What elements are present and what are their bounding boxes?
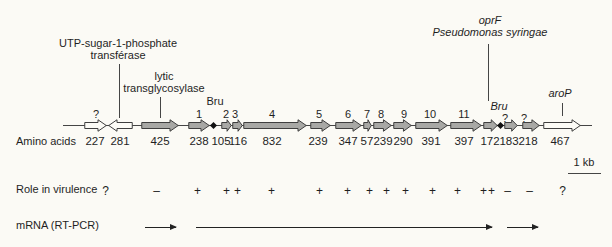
aa-count: 239 <box>308 135 327 147</box>
virulence-symbol: + <box>223 184 231 198</box>
gene-arrow-orf9 <box>393 119 412 132</box>
gene-number-orf2: 2 <box>223 108 229 120</box>
gene-number-orf4: 4 <box>269 108 275 120</box>
gene-number-orf7: 7 <box>364 108 370 120</box>
aa-count: 105 <box>211 135 230 147</box>
gene-number-orf9: 9 <box>401 108 407 120</box>
gene-arrow-orf10 <box>415 119 448 132</box>
gene-number-unknown-227: ? <box>93 108 99 120</box>
gene-arrow-orf1 <box>188 119 210 132</box>
lytic-transglycosylase-label: lytic transglycosylase <box>123 71 204 94</box>
aa-count: 239 <box>373 135 392 147</box>
gene-arrow-orf2 <box>221 119 232 132</box>
bru-left-label: Bru <box>206 96 223 108</box>
gene-arrow-orf6 <box>335 119 362 132</box>
gene-arrow-orf11 <box>450 119 482 132</box>
lytic-label-line1: lytic <box>155 70 174 82</box>
aa-count: 218 <box>518 135 537 147</box>
gene-arrow-orf3 <box>232 119 243 132</box>
oprf-pointer-line <box>488 44 489 101</box>
mrna-transcript-arrow-2 <box>196 227 492 228</box>
aa-count: 238 <box>189 135 208 147</box>
aa-count: 425 <box>150 135 169 147</box>
gene-number-unknown-183: ? <box>502 112 508 124</box>
mrna-transcript-arrow-1 <box>145 227 176 228</box>
utp-transferase-label-line1: UTP-sugar-1-phosphate <box>59 37 177 49</box>
mrna-row-label: mRNA (RT-PCR) <box>16 220 99 232</box>
virulence-symbol: + <box>402 184 410 198</box>
gene-number-orf11: 11 <box>458 108 469 120</box>
scale-bar-label: 1 kb <box>574 157 595 169</box>
virulence-symbol: – <box>504 184 512 198</box>
aa-count: 347 <box>338 135 357 147</box>
oprf-label: oprF <box>479 15 502 27</box>
virulence-row-label: Role in virulence <box>16 184 97 196</box>
virulence-symbol: + <box>316 184 324 198</box>
pseudomonas-syringae-label: Pseudomonas syringae <box>433 27 548 39</box>
gene-cluster-diagram: UTP-sugar-1-phosphate transférase lytic … <box>0 0 612 247</box>
gene-number-orf3: 3 <box>232 108 238 120</box>
gene-arrow-orf4 <box>243 119 307 132</box>
aa-count: 227 <box>85 135 104 147</box>
gene-number-orf5: 5 <box>316 108 322 120</box>
virulence-symbol: + <box>344 184 352 198</box>
virulence-symbol: – <box>526 184 534 198</box>
aa-count: 397 <box>454 135 473 147</box>
bru-site-icon <box>210 122 217 129</box>
amino-acids-row-label: Amino acids <box>16 136 76 148</box>
gene-arrow-unknown-227 <box>84 119 107 132</box>
gene-arrow-arop-homolog <box>543 119 581 132</box>
gene-arrow-oprf-homolog <box>483 119 498 132</box>
mrna-transcript-arrow-3 <box>507 227 538 228</box>
aa-count: 832 <box>262 135 281 147</box>
aa-count: 183 <box>499 135 518 147</box>
arop-pointer-line <box>562 103 563 116</box>
gene-number-orf10: 10 <box>424 108 436 120</box>
utp-transferase-label-line2: transférase <box>90 49 145 61</box>
utp-transferase-pointer-line <box>119 64 120 118</box>
aa-count: 281 <box>110 135 129 147</box>
aa-count: 116 <box>229 135 247 147</box>
virulence-symbol: + <box>366 184 374 198</box>
scale-bar-line <box>568 173 601 174</box>
gene-arrow-orf7 <box>363 119 372 132</box>
lytic-transglycosylase-pointer-line <box>160 97 161 118</box>
virulence-symbol: ? <box>559 184 567 198</box>
gene-arrow-orf5 <box>310 119 331 132</box>
virulence-symbol: + <box>268 184 276 198</box>
virulence-symbol: + <box>234 184 242 198</box>
aa-count: 391 <box>421 135 440 147</box>
bru-right-label: Bru <box>490 101 507 113</box>
virulence-symbol: + <box>383 184 391 198</box>
aa-count: 57 <box>361 135 374 147</box>
lytic-label-line2: transglycosylase <box>123 82 204 94</box>
gene-arrow-utp-transferase <box>108 119 133 132</box>
virulence-symbol: ++ <box>480 184 496 198</box>
aa-count: 172 <box>480 135 499 147</box>
gene-number-orf6: 6 <box>345 108 351 120</box>
gene-number-orf1: 1 <box>196 108 202 120</box>
gene-number-unknown-218: ? <box>521 112 527 124</box>
gene-arrow-lytic-transglycosylase <box>141 119 179 132</box>
virulence-symbol: + <box>429 184 437 198</box>
virulence-symbol: ? <box>102 184 110 198</box>
virulence-symbol: + <box>454 184 462 198</box>
arop-label: aroP <box>548 88 571 100</box>
utp-transferase-label: UTP-sugar-1-phosphate transférase <box>59 38 177 61</box>
virulence-symbol: + <box>194 184 202 198</box>
aa-count: 290 <box>393 135 412 147</box>
virulence-symbol: – <box>153 184 161 198</box>
gene-number-orf8: 8 <box>378 108 384 120</box>
aa-count: 467 <box>550 135 569 147</box>
gene-arrow-orf8 <box>373 119 392 132</box>
